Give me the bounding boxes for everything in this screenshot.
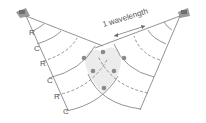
interference-diagram <box>0 0 206 123</box>
label-r3: R <box>54 93 60 101</box>
label-r1: R <box>29 29 35 37</box>
label-c1: C <box>34 45 40 53</box>
label-c3: C <box>63 108 69 116</box>
label-r2: R <box>40 60 46 68</box>
label-c2: C <box>47 77 53 85</box>
